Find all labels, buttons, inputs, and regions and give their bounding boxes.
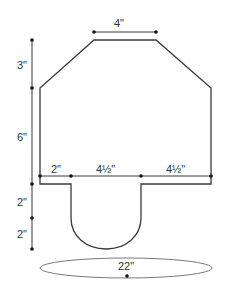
tab-offset-label: 2" xyxy=(51,163,61,175)
upper-height-label: 3" xyxy=(17,59,27,71)
tab-straight-height-label: 2" xyxy=(17,196,27,208)
body-height-label: 6" xyxy=(17,131,27,143)
tab-round-height-label: 2" xyxy=(17,228,27,240)
base-circumference-label: 22" xyxy=(118,260,134,272)
right-width-label: 4½" xyxy=(166,163,185,175)
horizontal-width-dimension xyxy=(38,174,213,178)
top-width-dimension xyxy=(92,30,158,34)
left-height-dimension xyxy=(30,38,34,251)
top-width-label: 4" xyxy=(114,17,124,29)
pattern-diagram xyxy=(0,0,228,289)
tab-width-label: 4½" xyxy=(96,163,115,175)
pattern-piece-outline xyxy=(40,40,211,249)
